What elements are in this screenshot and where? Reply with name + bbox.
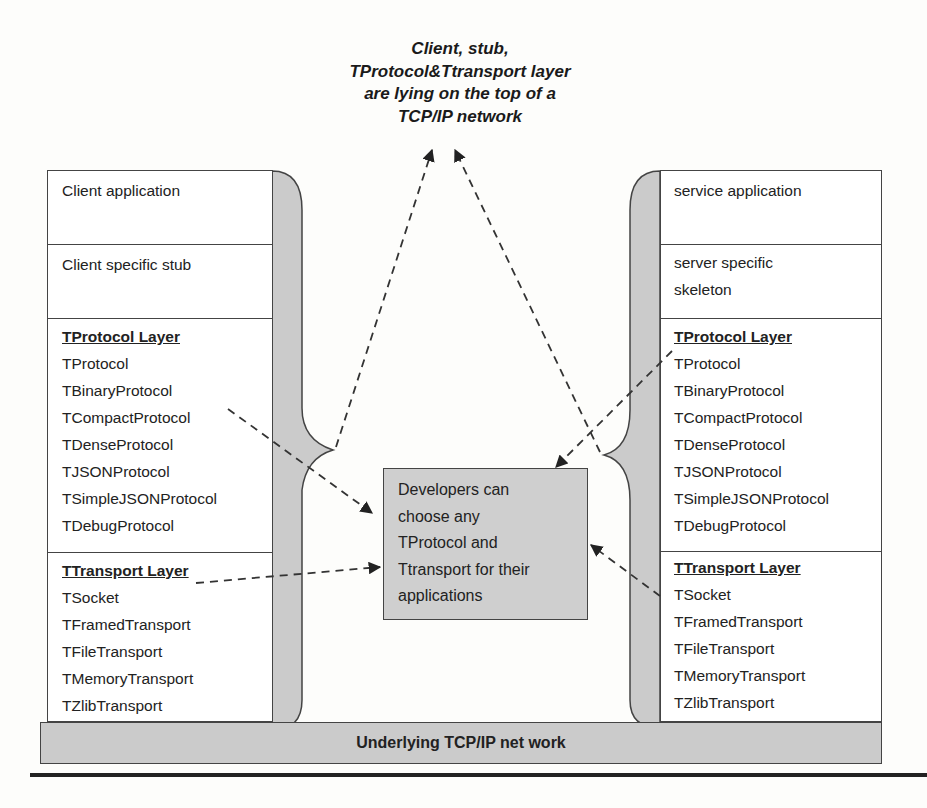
arrow-client-protocol-icon [228, 409, 372, 513]
dashed-arrows [0, 0, 927, 808]
arrow-client-transport-icon [196, 567, 380, 583]
arrow-server-protocol-icon [556, 351, 672, 467]
arrow-server-transport-icon [591, 545, 660, 596]
arrow-right-to-title-icon [455, 150, 600, 452]
arrow-left-to-title-icon [336, 150, 432, 447]
page-divider [30, 773, 927, 777]
